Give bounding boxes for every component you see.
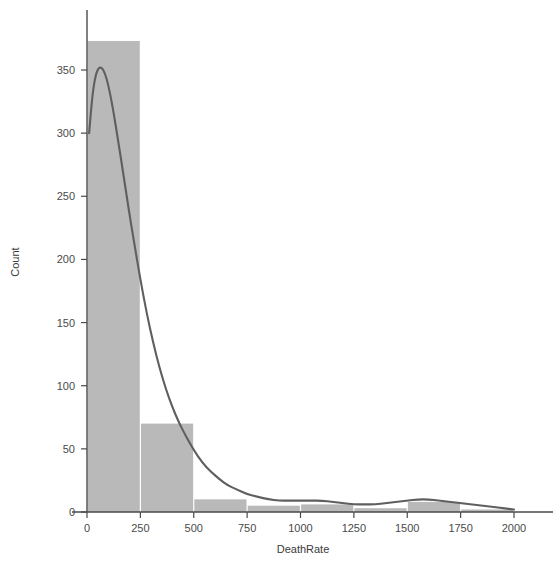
histogram-bars [88, 41, 514, 512]
y-tick-label: 250 [57, 190, 75, 202]
chart-canvas: 050100150200250300350 025050075010001250… [0, 0, 560, 564]
y-tick-label: 150 [57, 317, 75, 329]
x-tick-label: 750 [238, 522, 256, 534]
histogram-figure: 050100150200250300350 025050075010001250… [0, 0, 560, 564]
y-tick-label: 200 [57, 253, 75, 265]
x-tick-label: 500 [185, 522, 203, 534]
x-tick-label: 1000 [288, 522, 312, 534]
y-tick-label: 300 [57, 127, 75, 139]
x-tick-label: 1750 [448, 522, 472, 534]
histogram-bar [301, 504, 353, 512]
x-axis-ticks: 025050075010001250150017502000 [84, 512, 526, 534]
y-tick-label: 50 [63, 443, 75, 455]
y-axis-title: Count [9, 247, 21, 276]
y-tick-label: 0 [69, 506, 75, 518]
y-tick-label: 350 [57, 64, 75, 76]
histogram-bar [194, 499, 246, 512]
x-tick-label: 1250 [342, 522, 366, 534]
x-tick-label: 1500 [395, 522, 419, 534]
x-tick-label: 2000 [502, 522, 526, 534]
x-tick-label: 250 [131, 522, 149, 534]
x-tick-label: 0 [84, 522, 90, 534]
x-axis-title: DeathRate [277, 543, 330, 555]
y-tick-label: 100 [57, 380, 75, 392]
histogram-bar [248, 506, 300, 512]
y-axis-ticks: 050100150200250300350 [57, 64, 87, 518]
histogram-bar [408, 502, 460, 512]
